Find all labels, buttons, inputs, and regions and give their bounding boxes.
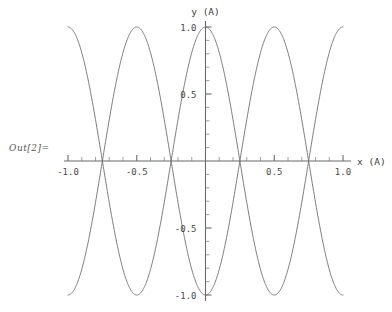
plot-area[interactable]: -1.0-0.50.51.0-1.0-0.50.51.0 x (A) y (A) xyxy=(0,0,392,312)
y-tick-label: -0.5 xyxy=(175,224,197,234)
x-tick-label: 0.5 xyxy=(266,167,282,177)
x-tick-label: 1.0 xyxy=(335,167,351,177)
y-tick-label: 1.0 xyxy=(180,23,196,33)
mathematica-output-cell: Out[2]= -1.0-0.50.51.0-1.0-0.50.51.0 x (… xyxy=(0,0,392,312)
x-axis-title: x (A) xyxy=(357,156,386,167)
y-tick-label: 0.5 xyxy=(180,90,196,100)
x-tick-label: -0.5 xyxy=(126,167,148,177)
x-tick-label: -1.0 xyxy=(57,167,79,177)
y-tick-label: -1.0 xyxy=(175,291,197,301)
plot-svg: -1.0-0.50.51.0-1.0-0.50.51.0 x (A) y (A) xyxy=(0,0,392,312)
y-axis-title: y (A) xyxy=(191,6,220,17)
